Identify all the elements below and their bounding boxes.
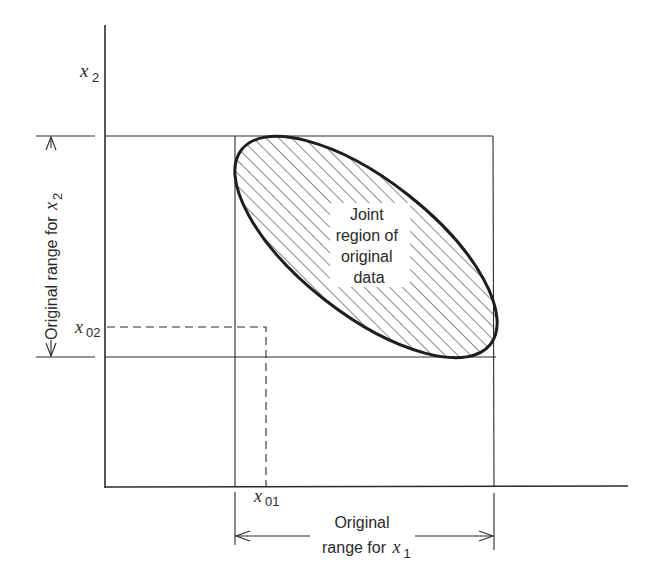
range-x2-sub: 2: [50, 193, 65, 200]
range-x1-dimension: Original range for x1: [236, 514, 493, 561]
x01-label: x 01: [253, 486, 279, 509]
y-axis-label: x 2: [79, 60, 99, 85]
range-x2-dimension: Original range for x2: [41, 137, 65, 356]
region-label-line1: Joint: [350, 206, 384, 223]
point-guides: [107, 327, 266, 487]
range-x1-var: x: [391, 537, 400, 557]
x02-var: x: [74, 317, 83, 337]
joint-region-diagram: Joint region of original data x 2 x 02 x…: [0, 0, 660, 582]
region-label-line4: data: [353, 269, 384, 286]
x02-label: x 02: [74, 317, 100, 340]
x01-var: x: [253, 486, 262, 506]
svg-text:range for x1: range for x1: [322, 537, 411, 561]
range-x2-var: x: [41, 202, 61, 211]
region-label-line2: region of: [336, 227, 399, 244]
range-x1-prefix: range for: [322, 539, 390, 556]
y-axis-var: x: [79, 60, 89, 81]
range-x1-line1: Original: [334, 514, 389, 531]
y-axis-sub: 2: [92, 70, 99, 85]
x02-dashed-guide: [107, 327, 266, 487]
range-x2-prefix: Original range for: [43, 212, 60, 340]
x-axis: [105, 486, 628, 487]
x01-sub: 01: [265, 494, 279, 509]
x02-sub: 02: [86, 325, 100, 340]
joint-region: Joint region of original data: [200, 97, 532, 400]
range-x1-sub: 1: [403, 546, 410, 561]
svg-text:Original range for x2: Original range for x2: [41, 193, 65, 340]
region-label-line3: original: [341, 248, 393, 265]
